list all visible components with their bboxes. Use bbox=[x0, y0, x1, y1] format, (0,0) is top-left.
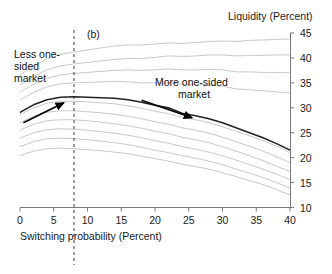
series-line-curve-7 bbox=[20, 111, 290, 163]
y-tick-labels: 1015202530354045 bbox=[300, 27, 312, 214]
x-tick-label: 15 bbox=[115, 214, 127, 226]
x-tick-label: 10 bbox=[82, 214, 94, 226]
x-tick-label: 25 bbox=[183, 214, 195, 226]
chart-figure: 0510152025303540 Switching probability (… bbox=[0, 0, 332, 274]
y-tick-label: 30 bbox=[300, 102, 312, 114]
y-axis: 1015202530354045 Liquidity (Percent) bbox=[228, 10, 313, 214]
x-tick-label: 30 bbox=[217, 214, 229, 226]
annotation-more-arrow-icon bbox=[142, 100, 193, 117]
annotation-less-line-1: Less one- bbox=[14, 48, 61, 60]
annotation-less-line-2: sided bbox=[14, 60, 39, 72]
y-tick-label: 10 bbox=[300, 202, 312, 214]
panel-label: (b) bbox=[87, 28, 100, 40]
x-tick-label: 20 bbox=[149, 214, 161, 226]
x-tick-label: 0 bbox=[17, 214, 23, 226]
y-tick-label: 45 bbox=[300, 27, 312, 39]
annotation-more-line-2: market bbox=[178, 88, 210, 100]
x-tick-label: 40 bbox=[284, 214, 296, 226]
annotation-less-line-3: market bbox=[14, 72, 46, 84]
liquidity-vs-switching-probability-chart: 0510152025303540 Switching probability (… bbox=[0, 0, 332, 274]
x-tick-label: 5 bbox=[51, 214, 57, 226]
y-tick-label: 40 bbox=[300, 52, 312, 64]
x-axis: 0510152025303540 Switching probability (… bbox=[17, 208, 296, 243]
y-tick-label: 15 bbox=[300, 177, 312, 189]
x-tick-marks bbox=[20, 208, 290, 212]
y-tick-label: 20 bbox=[300, 152, 312, 164]
y-tick-label: 25 bbox=[300, 127, 312, 139]
x-tick-labels: 0510152025303540 bbox=[17, 214, 296, 226]
y-tick-label: 35 bbox=[300, 77, 312, 89]
series-line-curve-6 bbox=[20, 101, 290, 152]
series-line-curve-9 bbox=[20, 129, 290, 180]
series-group bbox=[20, 39, 290, 195]
x-tick-label: 35 bbox=[250, 214, 262, 226]
x-axis-title: Switching probability (Percent) bbox=[20, 230, 162, 242]
annotation-more-line-1: More one-sided bbox=[155, 76, 228, 88]
y-axis-title: Liquidity (Percent) bbox=[228, 10, 313, 22]
